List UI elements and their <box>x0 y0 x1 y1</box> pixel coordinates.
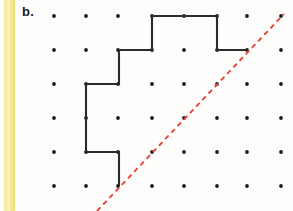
staircase-figure-outline <box>86 16 247 186</box>
figure-panel: b. <box>0 0 293 211</box>
dashed-symmetry-line <box>97 14 284 211</box>
dot-lattice-diagram <box>0 0 293 211</box>
